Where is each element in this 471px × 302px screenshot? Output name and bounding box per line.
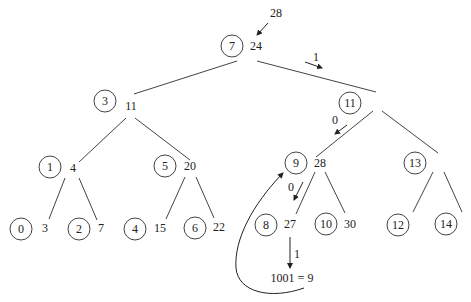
node-13: 13	[404, 152, 426, 174]
node-value: 3	[42, 221, 48, 235]
node-index: 6	[192, 221, 198, 235]
edge-9-8	[296, 172, 315, 214]
edge-11-9	[316, 111, 373, 157]
node-index: 11	[344, 96, 356, 110]
edge-3-1	[79, 118, 126, 162]
node-10: 10	[315, 213, 337, 235]
node-12: 12	[387, 214, 409, 236]
node-index: 9	[293, 156, 299, 170]
node-value: 4	[70, 161, 76, 175]
node-index: 3	[102, 94, 108, 108]
node-5: 5	[154, 155, 176, 177]
node-index: 10	[320, 217, 332, 231]
node-value: 7	[98, 221, 104, 235]
node-index: 1	[47, 160, 53, 174]
node-value: 27	[284, 217, 296, 231]
edge-5-4	[166, 177, 185, 219]
node-8: 8	[255, 214, 277, 236]
node-index: 2	[76, 222, 82, 236]
node-3: 3	[94, 90, 116, 112]
node-value: 11	[125, 99, 137, 113]
node-2: 2	[68, 218, 90, 240]
node-index: 8	[263, 218, 269, 232]
node-values: 24 11 4 20 28 3 7 15 22 27 30	[42, 39, 356, 235]
node-6: 6	[184, 217, 206, 239]
edge-9-10	[325, 172, 345, 213]
edge-11-13	[382, 111, 438, 153]
edge-5-6	[196, 177, 214, 218]
node-7: 7	[221, 35, 243, 57]
edge-1-2	[79, 178, 97, 220]
node-9: 9	[285, 152, 307, 174]
node-1: 1	[39, 156, 61, 178]
tree-diagram: 7 3 11 1 5 9 13 0 2 4 6 8 10 12 14	[0, 0, 471, 302]
bit-label-1b: 1	[294, 247, 300, 261]
edge-13-14	[444, 172, 462, 212]
bit-arrow-0b	[294, 182, 303, 200]
node-index: 12	[392, 218, 404, 232]
node-index: 0	[18, 222, 24, 236]
bit-label-0b: 0	[288, 180, 294, 194]
tree-edges	[49, 61, 462, 220]
edge-13-12	[413, 172, 433, 212]
index-circles: 7 3 11 1 5 9 13 0 2 4 6 8 10 12 14	[10, 35, 457, 240]
query-value: 28	[270, 6, 282, 20]
edge-3-5	[135, 118, 190, 160]
node-index: 7	[229, 39, 235, 53]
node-index: 13	[409, 156, 421, 170]
node-value: 28	[314, 156, 326, 170]
node-4: 4	[124, 218, 146, 240]
node-value: 30	[344, 217, 356, 231]
node-value: 15	[154, 221, 166, 235]
result-label: 1001 = 9	[271, 271, 314, 285]
node-index: 5	[162, 159, 168, 173]
node-0: 0	[10, 218, 32, 240]
query-arrow	[257, 23, 268, 35]
node-value: 22	[213, 220, 225, 234]
bit-label-1: 1	[313, 50, 319, 64]
node-value: 24	[250, 39, 262, 53]
node-index: 14	[440, 217, 452, 231]
edge-1-0	[49, 178, 65, 219]
node-14: 14	[435, 213, 457, 235]
node-11: 11	[339, 92, 361, 114]
node-value: 20	[184, 159, 196, 173]
bit-label-0a: 0	[332, 113, 338, 127]
node-index: 4	[132, 222, 138, 236]
edge-7-3	[134, 61, 237, 94]
